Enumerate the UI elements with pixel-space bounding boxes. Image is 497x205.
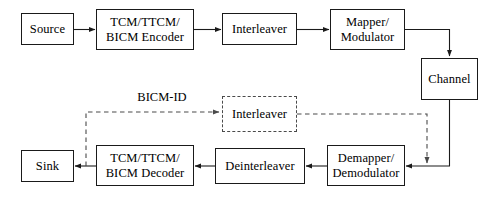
node-demapper-label-0: Demapper/ bbox=[338, 151, 394, 166]
node-demapper-demodulator[interactable]: Demapper/ Demodulator bbox=[327, 145, 405, 186]
node-channel[interactable]: Channel bbox=[421, 58, 478, 100]
node-deinterleaver-label-0: Deinterleaver bbox=[225, 159, 294, 174]
node-source[interactable]: Source bbox=[21, 13, 74, 45]
node-encoder-label-0: TCM/TTCM/ bbox=[110, 15, 180, 30]
node-mapper-label-1: Modulator bbox=[341, 30, 395, 45]
node-demapper-label-1: Demodulator bbox=[332, 166, 399, 181]
node-deinterleaver[interactable]: Deinterleaver bbox=[215, 148, 305, 184]
node-sink[interactable]: Sink bbox=[21, 150, 74, 182]
node-source-label-0: Source bbox=[30, 22, 65, 37]
node-decoder-label-0: TCM/TTCM/ bbox=[110, 151, 180, 166]
node-mapper-modulator[interactable]: Mapper/ Modulator bbox=[330, 9, 405, 50]
node-interleaver[interactable]: Interleaver bbox=[222, 13, 297, 45]
node-sink-label-0: Sink bbox=[36, 159, 59, 174]
node-encoder-label-1: BICM Encoder bbox=[106, 30, 184, 45]
node-channel-label-0: Channel bbox=[428, 72, 470, 87]
node-feedback-interleaver-label-0: Interleaver bbox=[232, 107, 287, 122]
node-feedback-interleaver[interactable]: Interleaver bbox=[222, 96, 297, 132]
bicm-id-annotation-label: BICM-ID bbox=[130, 90, 194, 105]
node-decoder-label-1: BICM Decoder bbox=[106, 166, 185, 181]
node-encoder[interactable]: TCM/TTCM/ BICM Encoder bbox=[96, 9, 194, 50]
bicm-id-block-diagram: Source TCM/TTCM/ BICM Encoder Interleave… bbox=[0, 0, 497, 205]
node-decoder[interactable]: TCM/TTCM/ BICM Decoder bbox=[96, 145, 194, 186]
connector-mapper-to-channel bbox=[405, 30, 450, 57]
node-mapper-label-0: Mapper/ bbox=[346, 15, 389, 30]
node-interleaver-label-0: Interleaver bbox=[232, 22, 287, 37]
connector-channel-to-demapper bbox=[406, 100, 450, 166]
